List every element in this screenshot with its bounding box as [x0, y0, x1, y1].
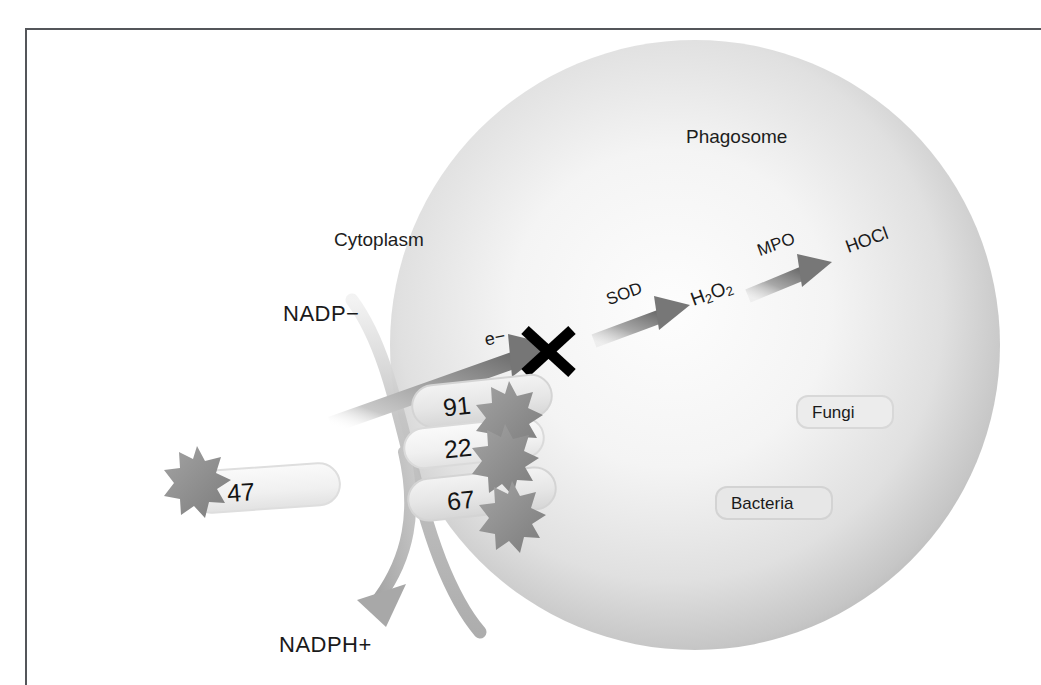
target-bacteria-label: Bacteria — [731, 495, 793, 512]
phagosome-label: Phagosome — [686, 127, 787, 146]
subunit-p67-label: 67 — [446, 485, 477, 517]
subunit-gp91-label: 91 — [442, 391, 473, 423]
cytoplasm-label: Cytoplasm — [334, 230, 424, 249]
nadph-return-arrow — [357, 452, 410, 627]
subunit-p47-label: 47 — [226, 477, 256, 508]
figure-container: Phagosome Cytoplasm NADP− NADPH+ e− SOD … — [0, 0, 1041, 685]
electron-label: e− — [483, 327, 507, 349]
nadph-output-label: NADPH+ — [279, 634, 372, 656]
target-fungi-label: Fungi — [812, 404, 855, 421]
diagram-artwork — [0, 0, 1041, 685]
subunit-p22-label: 22 — [443, 433, 474, 465]
nadp-input-label: NADP− — [283, 303, 359, 325]
